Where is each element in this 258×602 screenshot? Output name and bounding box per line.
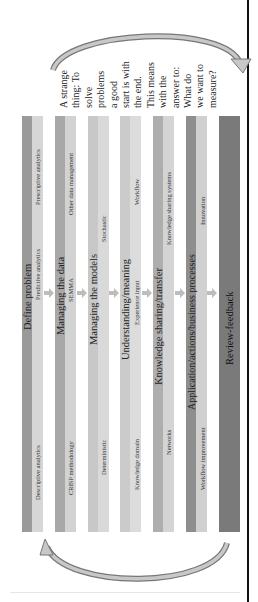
stage-sub: Other data management	[67, 153, 74, 215]
stage-title: Managing the models	[88, 254, 99, 345]
note-line: the end.	[132, 61, 144, 108]
stage-sub: Prescriptive analytics	[34, 149, 41, 205]
stage-sub: Workflow improvement	[199, 428, 206, 490]
note-line: solve	[83, 61, 95, 108]
arrow-right-icon	[77, 288, 87, 298]
stage-title: Understanding/meaning	[120, 259, 131, 360]
note-line: start is with	[120, 61, 132, 108]
stage-title: Managing the data	[55, 257, 66, 335]
arrow-right-icon	[142, 288, 152, 298]
page-border	[247, 0, 249, 602]
arrow-right-icon	[109, 288, 119, 298]
arrow-right-icon	[207, 288, 217, 298]
arrow-right-icon	[175, 288, 185, 298]
note-line: This means	[145, 61, 157, 108]
stage-sub: Descriptive analytics	[34, 445, 41, 500]
stage-title: Define problem	[22, 264, 33, 330]
stage-sub: Predictive analytics	[34, 249, 41, 300]
stage-sub: Workflow	[133, 179, 140, 205]
note-line: with the	[157, 61, 169, 108]
stage-title: Knowledge sharing/transfer	[153, 268, 164, 385]
note-line: we want to	[194, 61, 206, 108]
stage-sub: Knowledge domain	[133, 439, 140, 490]
note-line: measure?	[207, 61, 219, 108]
note-line: a good	[108, 61, 120, 108]
stage-sub: Knowledge sharing systems	[165, 172, 172, 245]
note-line: problems	[95, 61, 107, 108]
stage-sub: Innovation	[199, 197, 206, 225]
arrow-right-icon	[44, 288, 54, 298]
stage-sub: Stochastic	[100, 215, 107, 242]
stage-sub: CRISP methodology	[67, 441, 74, 495]
note-line: thing: To	[70, 61, 82, 108]
stage-sub: Experience input	[133, 281, 140, 325]
curved-arrow-bottom-icon	[35, 535, 245, 595]
stage-title: Review-feedback	[224, 292, 235, 365]
note-line: answer to:	[170, 61, 182, 108]
stage-sub: Networks	[165, 430, 172, 455]
note-line: What do	[182, 61, 194, 108]
stage-sub: SEMMA	[67, 278, 74, 302]
note-line: A strange	[58, 61, 70, 108]
note-text: A strange thing: To solve problems a goo…	[58, 61, 219, 108]
stage-sub: Deterministic	[100, 440, 107, 475]
stage-title: Application/actions/business processes	[186, 254, 197, 410]
